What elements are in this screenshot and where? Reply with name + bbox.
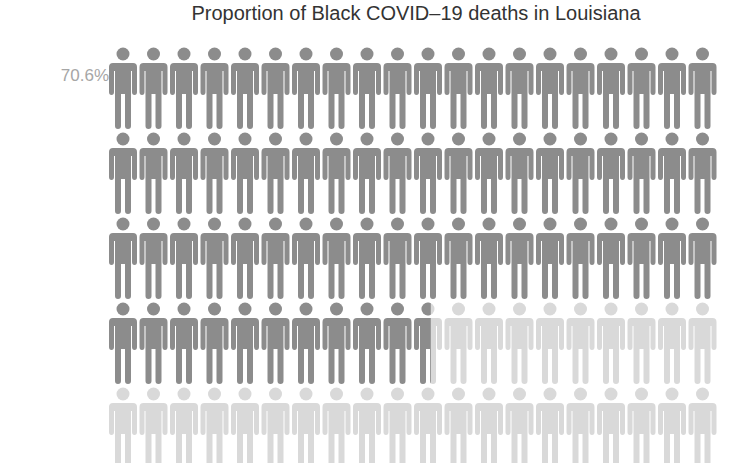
person-icon <box>201 388 229 463</box>
person-icon <box>140 218 168 300</box>
person-icon <box>231 303 259 385</box>
person-icon <box>262 303 290 385</box>
person-icon <box>353 303 381 385</box>
person-icon <box>262 218 290 300</box>
person-icon <box>384 303 412 385</box>
pictogram-grid <box>0 0 751 463</box>
person-icon <box>201 133 229 215</box>
person-icon <box>689 303 717 385</box>
person-icon <box>414 218 442 300</box>
person-icon <box>201 303 229 385</box>
person-icon <box>536 303 564 385</box>
person-icon <box>414 48 442 130</box>
person-icon <box>292 48 320 130</box>
person-icon <box>323 388 351 463</box>
person-icon <box>567 48 595 130</box>
person-icon <box>262 133 290 215</box>
person-icon <box>658 48 686 130</box>
person-icon <box>109 48 137 130</box>
person-icon <box>201 218 229 300</box>
person-icon <box>628 48 656 130</box>
person-icon <box>445 303 473 385</box>
person-icon <box>231 218 259 300</box>
person-icon <box>536 218 564 300</box>
person-icon <box>353 388 381 463</box>
person-icon <box>567 388 595 463</box>
person-icon <box>475 388 503 463</box>
person-icon <box>140 303 168 385</box>
person-icon <box>567 133 595 215</box>
person-icon <box>506 388 534 463</box>
person-icon <box>658 303 686 385</box>
person-icon <box>353 133 381 215</box>
person-icon <box>384 218 412 300</box>
person-icon <box>170 133 198 215</box>
person-icon <box>628 303 656 385</box>
person-icon <box>109 303 137 385</box>
person-icon <box>658 218 686 300</box>
person-icon <box>597 218 625 300</box>
person-icon <box>292 388 320 463</box>
person-icon <box>231 48 259 130</box>
person-icon <box>536 48 564 130</box>
person-icon <box>658 388 686 463</box>
person-icon <box>323 303 351 385</box>
person-icon <box>536 388 564 463</box>
person-icon <box>140 388 168 463</box>
person-icon <box>292 218 320 300</box>
person-icon <box>384 388 412 463</box>
person-icon <box>414 303 442 385</box>
pictogram-svg <box>0 0 751 463</box>
person-icon <box>475 48 503 130</box>
person-icon <box>567 303 595 385</box>
person-icon <box>201 48 229 130</box>
person-icon <box>323 133 351 215</box>
person-icon <box>445 133 473 215</box>
person-icon <box>262 388 290 463</box>
person-icon <box>445 48 473 130</box>
person-icon <box>231 133 259 215</box>
person-icon <box>658 133 686 215</box>
person-icon <box>597 388 625 463</box>
person-icon <box>140 133 168 215</box>
person-icon <box>384 133 412 215</box>
person-icon <box>445 388 473 463</box>
person-icon <box>170 388 198 463</box>
person-icon <box>628 133 656 215</box>
person-icon <box>689 133 717 215</box>
person-icon <box>597 48 625 130</box>
person-icon <box>140 48 168 130</box>
person-icon <box>597 133 625 215</box>
person-icon <box>475 133 503 215</box>
person-icon <box>109 133 137 215</box>
person-icon <box>323 218 351 300</box>
person-icon <box>353 48 381 130</box>
person-icon <box>506 303 534 385</box>
person-icon <box>292 133 320 215</box>
person-icon <box>536 133 564 215</box>
person-icon <box>689 218 717 300</box>
person-icon <box>506 48 534 130</box>
person-icon <box>170 48 198 130</box>
person-icon <box>323 48 351 130</box>
person-icon <box>353 218 381 300</box>
person-icon <box>109 218 137 300</box>
person-icon <box>170 218 198 300</box>
person-icon <box>689 388 717 463</box>
person-icon <box>170 303 198 385</box>
person-icon <box>414 388 442 463</box>
person-icon <box>292 303 320 385</box>
person-icon <box>506 133 534 215</box>
person-icon <box>475 303 503 385</box>
person-icon <box>506 218 534 300</box>
person-icon <box>567 218 595 300</box>
person-icon <box>262 48 290 130</box>
person-icon <box>414 133 442 215</box>
person-icon <box>689 48 717 130</box>
person-icon <box>475 218 503 300</box>
person-icon <box>231 388 259 463</box>
person-icon <box>628 218 656 300</box>
person-icon <box>597 303 625 385</box>
person-icon <box>384 48 412 130</box>
person-icon <box>628 388 656 463</box>
